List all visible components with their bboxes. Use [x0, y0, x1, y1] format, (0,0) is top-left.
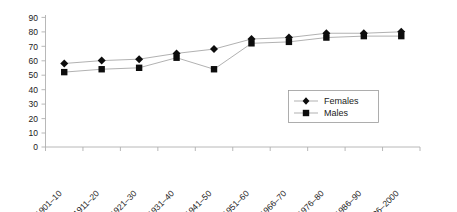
legend-label-males: Males — [324, 108, 349, 118]
square-marker-icon — [303, 110, 309, 116]
square-marker-icon — [136, 65, 142, 71]
y-tick-label: 0 — [33, 142, 38, 152]
chart-canvas: 90 80 70 60 50 40 30 20 10 0 1901–101911… — [0, 0, 457, 212]
y-tick-label: 80 — [29, 27, 39, 37]
chart-legend: Females Males — [289, 91, 379, 123]
square-marker-icon — [98, 66, 104, 72]
y-tick-label: 70 — [29, 42, 39, 52]
legend-label-females: Females — [324, 96, 359, 106]
y-tick-label: 50 — [29, 70, 39, 80]
y-tick-label: 30 — [29, 99, 39, 109]
y-tick-label: 90 — [29, 13, 39, 23]
y-tick-label: 20 — [29, 114, 39, 124]
chart-background — [0, 0, 457, 212]
y-tick-label: 40 — [29, 85, 39, 95]
y-tick-label: 10 — [29, 128, 39, 138]
line-chart: 90 80 70 60 50 40 30 20 10 0 1901–101911… — [0, 0, 457, 212]
y-tick-label: 60 — [29, 56, 39, 66]
square-marker-icon — [211, 66, 217, 72]
square-marker-icon — [61, 69, 67, 75]
